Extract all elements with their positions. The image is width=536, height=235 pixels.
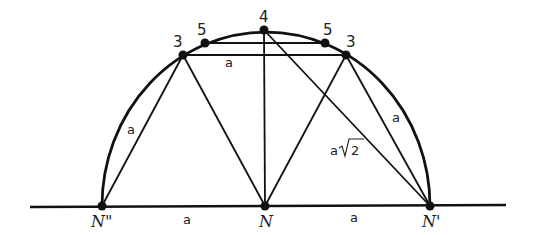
point-N-double-prime (98, 202, 107, 211)
point-3-left (179, 51, 188, 60)
label-right-chord: a (392, 110, 400, 125)
label-diagonal-prefix: a (330, 143, 338, 158)
semicircle-construction-diagram: 4 5 5 3 3 N" N N' a a a a a a 2 (0, 0, 536, 235)
label-diagonal-radicand: 2 (351, 143, 359, 158)
label-N: N (258, 212, 274, 231)
label-base-left: a (183, 212, 191, 227)
chord-Npp-3left (102, 55, 183, 206)
label-base-right: a (350, 210, 358, 225)
chord-N-3right (265, 55, 346, 206)
radius-N-4 (264, 30, 265, 206)
point-5-left (201, 39, 210, 48)
label-3-left: 3 (173, 33, 183, 51)
point-5-right (321, 39, 330, 48)
label-5-left: 5 (197, 21, 207, 39)
label-4: 4 (259, 8, 269, 26)
label-top-chord: a (225, 55, 233, 70)
label-N-double-prime: N" (90, 212, 112, 231)
label-5-right: 5 (323, 21, 333, 39)
point-3-right (342, 51, 351, 60)
label-left-chord: a (127, 122, 135, 137)
label-3-right: 3 (346, 33, 356, 51)
point-4 (260, 26, 269, 35)
point-N-prime (426, 202, 435, 211)
chord-3left-N (183, 55, 265, 206)
point-N (261, 202, 270, 211)
label-N-prime: N' (421, 212, 440, 231)
label-diagonal: a 2 (330, 139, 364, 158)
